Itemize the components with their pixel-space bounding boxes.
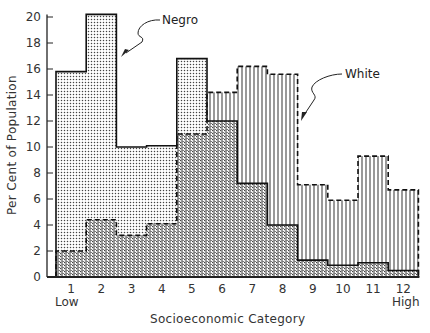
x-tick-label: 10: [335, 282, 350, 296]
x-axis-title: Socioeconomic Category: [150, 312, 305, 326]
overlap-bar: [237, 183, 267, 277]
negro-arrow-icon: [126, 20, 160, 53]
y-tick-label: 8: [33, 166, 41, 180]
overlap-bar: [267, 225, 297, 277]
y-tick-label: 2: [33, 244, 41, 258]
y-tick-label: 16: [26, 62, 41, 76]
white-arrow-icon: [304, 74, 342, 115]
y-tick-label: 6: [33, 192, 41, 206]
x-tick-label: 8: [279, 282, 287, 296]
x-tick-label: 2: [97, 282, 105, 296]
x-tick-label: 3: [128, 282, 136, 296]
negro-bar: [56, 72, 86, 277]
overlap-bar: [298, 260, 328, 277]
x-tick-label: 12: [396, 282, 411, 296]
y-ticks: 02468101214161820: [26, 10, 53, 284]
x-tick-label: 11: [365, 282, 380, 296]
y-tick-label: 10: [26, 140, 41, 154]
negro-label: Negro: [162, 13, 198, 27]
white-label: White: [345, 67, 380, 81]
y-tick-label: 18: [26, 36, 41, 50]
negro-annotation: Negro: [121, 13, 198, 57]
x-tick-label: 1: [67, 282, 75, 296]
histogram-chart: 02468101214161820 123456789101112 Low Hi…: [0, 0, 430, 333]
y-tick-label: 0: [33, 270, 41, 284]
x-tick-label: 5: [188, 282, 196, 296]
y-tick-label: 12: [26, 114, 41, 128]
x-high-label: High: [392, 295, 420, 309]
white-bar: [388, 190, 418, 277]
y-tick-label: 4: [33, 218, 41, 232]
overlap-bar: [116, 235, 146, 277]
overlap-bar: [358, 263, 388, 277]
overlap-bar: [86, 220, 116, 277]
overlap-bar: [207, 121, 237, 277]
x-low-label: Low: [55, 295, 79, 309]
y-tick-label: 14: [26, 88, 41, 102]
overlap-bar: [147, 224, 177, 277]
y-tick-label: 20: [26, 10, 41, 24]
y-axis-title: Per Cent of Population: [5, 75, 19, 215]
white-annotation: White: [301, 67, 380, 121]
x-tick-labels: 123456789101112: [67, 282, 411, 296]
x-tick-label: 7: [248, 282, 256, 296]
x-tick-label: 4: [158, 282, 166, 296]
x-tick-label: 9: [309, 282, 317, 296]
overlap-bar: [177, 134, 207, 277]
overlap-bar: [328, 265, 358, 277]
x-tick-label: 6: [218, 282, 226, 296]
overlap-bar: [56, 251, 86, 277]
white-bar: [358, 156, 388, 277]
